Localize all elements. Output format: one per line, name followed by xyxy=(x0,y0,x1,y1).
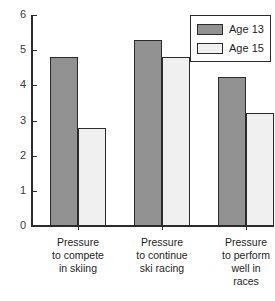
bar-age15-group2 xyxy=(162,57,190,226)
bar-age15-group3 xyxy=(246,113,274,226)
bar-chart: 0123456 Age 13 Age 15 Pressureto compete… xyxy=(0,0,275,301)
legend-item-age15: Age 15 xyxy=(197,40,264,56)
category-label-2: Pressureto continueski racing xyxy=(117,236,207,275)
x-tick-group2 xyxy=(162,226,163,230)
x-tick-group3 xyxy=(246,226,247,230)
category-label-line: to continue xyxy=(117,249,207,262)
bar-age13-group3 xyxy=(218,77,246,226)
category-label-line: races xyxy=(201,275,275,288)
category-label-line: in skiing xyxy=(33,262,123,275)
category-label-line: well in xyxy=(201,262,275,275)
legend-label-age13: Age 13 xyxy=(229,24,264,35)
legend-swatch-icon-age15 xyxy=(197,43,223,54)
category-label-3: Pressureto performwell inraces xyxy=(201,236,275,288)
legend-item-age13: Age 13 xyxy=(197,21,264,37)
category-label-1: Pressureto competein skiing xyxy=(33,236,123,275)
y-tick-0 xyxy=(31,226,37,227)
chart-legend: Age 13 Age 15 xyxy=(190,15,271,62)
bar-age13-group1 xyxy=(50,57,78,226)
legend-swatch-icon-age13 xyxy=(197,24,223,35)
category-label-line: Pressure xyxy=(201,236,275,249)
category-label-line: Pressure xyxy=(117,236,207,249)
category-label-line: to compete xyxy=(33,249,123,262)
category-label-line: to perform xyxy=(201,249,275,262)
bar-age13-group2 xyxy=(134,40,162,226)
plot-area: 0123456 Age 13 Age 15 xyxy=(0,0,275,240)
x-axis-category-labels: Pressureto competein skiingPressureto co… xyxy=(0,232,275,301)
bar-age15-group1 xyxy=(78,128,106,226)
legend-label-age15: Age 15 xyxy=(229,43,264,54)
x-tick-group1 xyxy=(78,226,79,230)
category-label-line: ski racing xyxy=(117,262,207,275)
category-label-line: Pressure xyxy=(33,236,123,249)
